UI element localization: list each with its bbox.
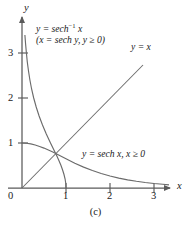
x-axis-label: x: [177, 180, 182, 191]
annotation-inverse-exponent: −1: [69, 22, 76, 29]
annotation-sech-curve: y = sech x, x ≥ 0: [82, 148, 145, 159]
figure-caption: (c): [0, 206, 191, 217]
annotation-inverse-line1-base: y = sech: [36, 23, 69, 34]
origin-label: 0: [8, 190, 13, 201]
annotation-inverse-line1: y = sech−1 x: [36, 22, 105, 34]
annotation-inverse-line1-var: x: [76, 23, 83, 34]
curve-sech-inverse: [25, 35, 66, 188]
curve-identity-line: [22, 65, 143, 188]
y-tick-label-2: 2: [8, 92, 13, 103]
y-axis-label: y: [24, 2, 29, 13]
figure-container: y x 0 1 2 3 1 2 3 y = sech−1 x (x = sech…: [0, 0, 191, 227]
x-tick-label-1: 1: [63, 190, 68, 201]
annotation-inverse-line2: (x = sech y, y ≥ 0): [36, 34, 105, 45]
y-tick-label-1: 1: [8, 137, 13, 148]
x-tick-label-3: 3: [151, 190, 156, 201]
y-tick-label-3: 3: [8, 47, 13, 58]
annotation-identity-line: y = x: [131, 41, 151, 52]
x-tick-label-2: 2: [107, 190, 112, 201]
annotation-inverse-function: y = sech−1 x (x = sech y, y ≥ 0): [36, 22, 105, 45]
